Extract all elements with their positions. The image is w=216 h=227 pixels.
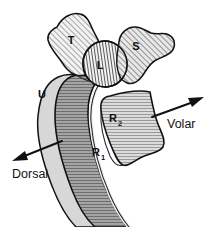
- label-radius-distal: R: [109, 112, 117, 124]
- label-radius-shaft-subscript: 1: [101, 153, 105, 162]
- label-radius-distal-subscript: 2: [118, 119, 122, 128]
- label-lunate: L: [97, 59, 104, 71]
- label-scaphoid: S: [132, 40, 139, 52]
- label-triquetrum: T: [68, 34, 75, 46]
- anatomy-diagram-canvas: T L S U R 2 R 1 Volar Dorsal: [0, 0, 216, 227]
- dorsal-label: Dorsal: [12, 167, 48, 181]
- anatomy-figure: T L S U R 2 R 1 Volar Dorsal: [0, 0, 216, 227]
- label-radius-shaft: R: [92, 146, 100, 158]
- label-ulna: U: [38, 88, 46, 100]
- volar-label: Volar: [167, 117, 196, 131]
